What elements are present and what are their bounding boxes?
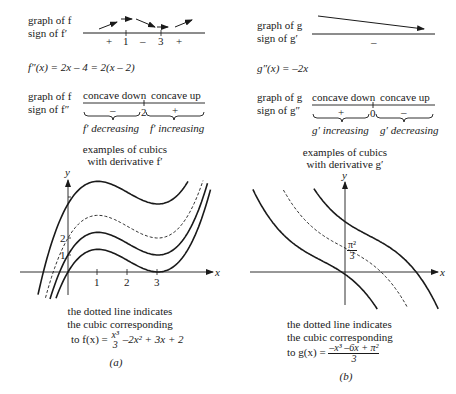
label-graph-of-g-2: graph of g xyxy=(257,91,302,103)
label-sign-of-g-double-prime: sign of g″ xyxy=(257,104,300,116)
note-a-line-2: the cubic corresponding xyxy=(60,318,180,330)
f-second-derivative-formula: f″(x) = 2x – 4 = 2(x – 2) xyxy=(28,61,135,73)
inflection-point-0: 0 xyxy=(370,107,376,119)
plot-b-x-label: x xyxy=(440,266,445,278)
sign-chart-g-prime xyxy=(312,16,435,34)
frac-den: 3 xyxy=(328,354,379,364)
plot-b xyxy=(250,182,438,309)
cubic-curve xyxy=(56,190,211,299)
plot-a-x-label: x xyxy=(215,266,220,278)
plot-b-title-1: examples of cubics xyxy=(290,146,400,158)
label-graph-of-g: graph of g xyxy=(257,19,302,31)
label-graph-of-f: graph of f xyxy=(28,14,71,26)
note-b-formula: to g(x) = –x³ –6x + π²3 xyxy=(287,343,379,364)
g-second-derivative-formula: g″(x) = –2x xyxy=(257,62,308,74)
note-a-prefix: to f(x) = xyxy=(71,333,108,345)
note-a-line-1: the dotted line indicates xyxy=(60,305,180,317)
y-tick-2: 2 xyxy=(60,232,66,244)
concave-up-label: concave up xyxy=(151,89,201,101)
x-tick-2: 2 xyxy=(124,276,130,288)
pi-squared-over-3: π²3 xyxy=(347,240,357,261)
plot-a-title-1: examples of cubics xyxy=(70,143,180,155)
concave-down-label: concave down xyxy=(83,89,146,101)
plot-a xyxy=(20,180,213,299)
sign-minus-g: – xyxy=(371,36,377,48)
x-tick-1: 1 xyxy=(94,276,100,288)
inflection-point-2: 2 xyxy=(141,106,147,118)
cubic-curve xyxy=(314,189,438,309)
sign-plus-2: + xyxy=(176,35,182,47)
label-graph-of-f-2: graph of f xyxy=(28,90,71,102)
label-sign-of-f-prime: sign of f′ xyxy=(28,27,67,39)
f-prime-decreasing: f′ decreasing xyxy=(83,122,139,134)
g-prime-increasing: g′ increasing xyxy=(312,124,369,136)
f-prime-increasing: f′ increasing xyxy=(150,122,204,134)
sign-minus-f2: – xyxy=(110,104,116,116)
frac-den: 3 xyxy=(347,251,357,261)
sign-plus-1: + xyxy=(106,35,112,47)
critical-point-3: 3 xyxy=(158,35,164,47)
note-b-fraction: –x³ –6x + π²3 xyxy=(328,343,379,364)
frac-den: 3 xyxy=(111,340,120,350)
concave-down-label-g: concave down xyxy=(312,91,375,103)
plot-b-y-label: y xyxy=(342,169,347,181)
caption-b: (b) xyxy=(330,370,362,382)
sign-minus-g2: – xyxy=(401,106,407,118)
note-a-suffix: –2x² + 3x + 2 xyxy=(123,333,184,345)
plot-a-title-2: with derivative f′ xyxy=(70,155,180,167)
note-a-fraction: x³3 xyxy=(111,330,120,350)
label-sign-of-f-double-prime: sign of f″ xyxy=(28,103,69,115)
x-tick-3: 3 xyxy=(154,276,160,288)
concave-up-label-g: concave up xyxy=(380,91,430,103)
plot-a-y-label: y xyxy=(65,166,70,178)
sign-plus-f2: + xyxy=(172,104,178,116)
sign-chart-f-prime xyxy=(83,19,205,36)
plot-b-y-intercept: π²3 xyxy=(347,240,357,261)
note-b-line-1: the dotted line indicates xyxy=(287,318,392,330)
note-a-formula: to f(x) = x³3 –2x² + 3x + 2 xyxy=(71,330,184,350)
label-sign-of-g-prime: sign of g′ xyxy=(257,32,298,44)
sign-minus: – xyxy=(140,35,146,47)
caption-a: (a) xyxy=(100,356,132,368)
cubic-curve xyxy=(253,189,377,309)
sign-plus-g2: + xyxy=(338,106,344,118)
y-tick-1: 1 xyxy=(60,249,66,261)
note-b-prefix: to g(x) = xyxy=(287,346,326,358)
critical-point-1: 1 xyxy=(123,35,129,47)
g-prime-decreasing: g′ decreasing xyxy=(380,124,439,136)
